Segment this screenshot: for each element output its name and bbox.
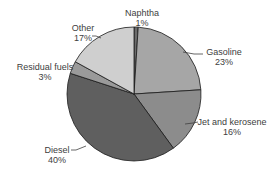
label-value: 23% — [203, 57, 245, 67]
label-name: Gasoline — [203, 47, 245, 57]
label-name: Other — [68, 23, 98, 33]
pie-slices — [67, 27, 201, 161]
slice-gasoline — [134, 27, 201, 94]
label-value: 40% — [42, 155, 72, 165]
label-value: 16% — [196, 127, 268, 137]
label-gasoline: Gasoline 23% — [203, 47, 245, 67]
label-jet: Jet and kerosene 16% — [196, 117, 268, 137]
label-name: Diesel — [42, 145, 72, 155]
label-value: 3% — [14, 72, 76, 82]
label-name: Residual fuels — [14, 62, 76, 72]
label-residual: Residual fuels 3% — [14, 62, 76, 82]
label-diesel: Diesel 40% — [42, 145, 72, 165]
label-value: 1% — [122, 18, 162, 28]
label-value: 17% — [68, 33, 98, 43]
label-name: Jet and kerosene — [196, 117, 268, 127]
label-other: Other 17% — [68, 23, 98, 43]
label-name: Naphtha — [122, 8, 162, 18]
label-naphtha: Naphtha 1% — [122, 8, 162, 28]
